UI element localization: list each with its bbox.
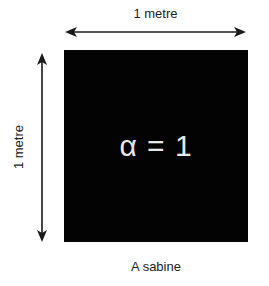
vertical-double-arrow-icon bbox=[37, 53, 47, 242]
width-label: 1 metre bbox=[65, 6, 246, 21]
height-label: 1 metre bbox=[11, 107, 27, 187]
horizontal-double-arrow-icon bbox=[65, 27, 246, 37]
sabine-diagram: 1 metre 1 metre α = 1 A sabine bbox=[0, 0, 269, 286]
absorption-coefficient-label: α = 1 bbox=[119, 129, 192, 163]
unit-square: α = 1 bbox=[64, 50, 248, 242]
caption: A sabine bbox=[64, 259, 248, 274]
